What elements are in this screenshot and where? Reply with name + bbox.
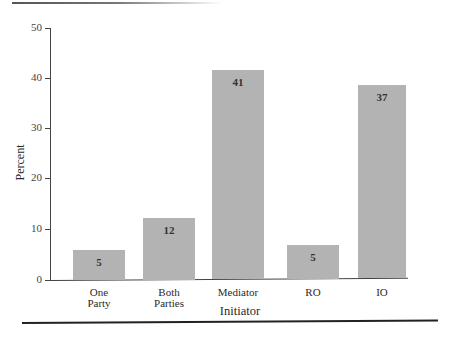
x-category-io: IO [347, 287, 417, 298]
category-label-line: RO [278, 287, 348, 298]
top-rule [12, 2, 222, 4]
bar-mediator: 41 [212, 70, 264, 279]
category-label-line: IO [347, 287, 417, 298]
bar-value-label: 5 [287, 251, 339, 263]
category-label-line: Mediator [203, 287, 273, 298]
y-tick [45, 280, 50, 281]
y-tick-label: 30 [14, 121, 42, 133]
category-label-line: Parties [134, 298, 204, 309]
y-tick [45, 78, 50, 79]
x-category-mediator: Mediator [203, 287, 273, 298]
bottom-rule [22, 319, 438, 324]
bar-value-label: 41 [212, 76, 264, 88]
y-tick-label: 0 [14, 273, 42, 285]
y-tick-label: 40 [14, 71, 42, 83]
bar-both-parties: 12 [143, 218, 195, 280]
y-tick-label: 50 [14, 21, 42, 33]
y-tick [45, 229, 50, 230]
bar-io: 37 [358, 85, 406, 278]
bar-ro: 5 [287, 245, 339, 279]
x-category-one-party: One Party [64, 287, 134, 309]
category-label-line: Party [64, 298, 134, 309]
bar-value-label: 12 [143, 224, 195, 236]
y-tick [45, 128, 50, 129]
bar-value-label: 5 [73, 256, 125, 268]
y-tick [45, 28, 50, 29]
y-tick-label: 10 [14, 222, 42, 234]
y-tick [45, 178, 50, 179]
y-axis-label: Percent [13, 133, 28, 193]
y-axis [50, 28, 51, 280]
x-axis-label: Initiator [200, 304, 280, 319]
bar-one-party: 5 [73, 250, 125, 280]
x-category-both-parties: Both Parties [134, 287, 204, 309]
x-category-ro: RO [278, 287, 348, 298]
bar-value-label: 37 [358, 91, 406, 103]
